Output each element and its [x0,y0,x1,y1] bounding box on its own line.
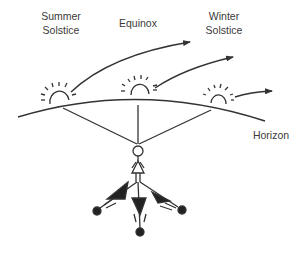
horizon-label: Horizon [247,128,295,142]
winter-label-line1: Winter [196,9,252,23]
sun-path-diagram: Summer Solstice Equinox Winter Solstice … [0,0,307,254]
summer-solstice-sun-icon [41,82,76,104]
winter-solstice-sun-icon [203,84,234,104]
winter-shadow-icon [140,182,186,214]
equinox-label-text: Equinox [110,16,166,30]
horizon-label-text: Horizon [247,128,295,142]
equinox-label: Equinox [110,16,166,30]
summer-solstice-label: Summer Solstice [33,9,89,37]
equinox-sun-icon [121,75,157,95]
stick-figure-person-icon [132,146,144,182]
horizon-arc [18,99,265,121]
winter-sun-path-arrow [235,91,272,97]
sight-lines [63,105,211,144]
summer-sun-path-arrow [71,42,190,92]
equinox-shadow-icon [132,182,146,236]
summer-shadow-icon [93,182,137,215]
diagram-graphics [0,0,307,254]
summer-label-line1: Summer [33,9,89,23]
winter-solstice-label: Winter Solstice [196,9,252,37]
winter-label-line2: Solstice [196,23,252,37]
equinox-sun-path-arrow [155,57,233,88]
summer-label-line2: Solstice [33,23,89,37]
